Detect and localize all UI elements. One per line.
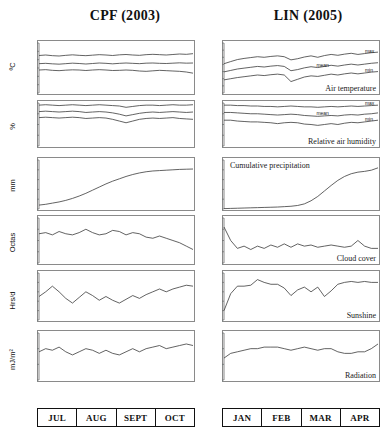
plot-area: 10152025303540 (37, 40, 195, 95)
chart-panel-lin-radiation: 0102030Radiation (222, 330, 380, 382)
series-line-min (224, 72, 378, 82)
month-cell: MAR (302, 409, 341, 426)
y-unit-precipitation: mm (8, 166, 17, 206)
chart-panel-cpf-radiation: 0102030 (37, 330, 195, 382)
figure-root: CPF (2003) LIN (2005) ºC % mm Octas Hrs/… (0, 0, 383, 441)
series-line-max (224, 105, 378, 107)
plot-area: 0102030 (37, 330, 195, 382)
series-label-mean: mean (316, 62, 329, 68)
panel-title-lin-cloud-cover: Cloud cover (337, 254, 376, 263)
month-cell: FEB (262, 409, 301, 426)
chart-panel-cpf-relative-humidity: 0255075100 (37, 100, 195, 148)
chart-panel-lin-cloud-cover: 02468Cloud cover (222, 215, 380, 265)
y-unit-temperature: ºC (8, 47, 17, 87)
chart-panel-lin-relative-humidity: 0255075100Relative air humiditymaxmeanmi… (222, 100, 380, 148)
plot-area: 02468 (37, 215, 195, 265)
plot-area: 0246810 (37, 270, 195, 322)
panel-title-lin-cumulative-precipitation: Cumulative precipitation (230, 161, 310, 170)
plot-area: 050100150200250 (37, 157, 195, 211)
chart-panel-cpf-sunshine: 0246810 (37, 270, 195, 322)
y-unit-sunshine: Hrs/d (8, 281, 17, 321)
series-label-max: max (365, 100, 374, 106)
chart-panel-cpf-cumulative-precipitation: 050100150200250 (37, 157, 195, 211)
series-label-max: max (365, 48, 374, 54)
series-line-radiation (224, 344, 378, 358)
series-line-mean (39, 63, 193, 64)
panel-title-lin-relative-humidity: Relative air humidity (308, 137, 376, 146)
chart-panel-lin-air-temperature: 510152025303540Air temperaturemaxmeanmin (222, 40, 380, 95)
month-cell: APR (341, 409, 379, 426)
month-cell: OCT (156, 409, 194, 426)
month-cell: SEPT (117, 409, 156, 426)
series-line-max (224, 52, 378, 64)
month-axis-cpf: JULAUGSEPTOCT (37, 408, 195, 427)
series-line-sunshine (224, 280, 378, 311)
chart-panel-lin-cumulative-precipitation: 050100150200250Cumulative precipitation (222, 157, 380, 211)
month-axis-lin: JANFEBMARAPR (222, 408, 380, 427)
series-line-cumulative (224, 168, 378, 209)
series-line-mean (224, 63, 378, 72)
series-line-max (39, 105, 193, 108)
chart-panel-cpf-air-temperature: 10152025303540 (37, 40, 195, 95)
series-line-cloud (39, 229, 193, 249)
plot-area: 0255075100 (37, 100, 195, 148)
panel-title-lin-radiation: Radiation (345, 371, 376, 380)
series-line-min (224, 120, 378, 125)
y-unit-humidity: % (8, 107, 17, 147)
series-label-mean: mean (316, 110, 329, 116)
month-cell: JAN (223, 409, 262, 426)
series-line-sunshine (39, 285, 193, 303)
panel-title-lin-sunshine: Sunshine (347, 311, 376, 320)
chart-panel-cpf-cloud-cover: 02468 (37, 215, 195, 265)
month-cell: JUL (38, 409, 77, 426)
column-title-cpf: CPF (2003) (55, 8, 195, 24)
series-line-cumulative (39, 169, 193, 205)
series-line-mean (224, 112, 378, 116)
series-line-min (39, 117, 193, 123)
series-line-radiation (39, 344, 193, 355)
series-label-min: min (365, 116, 373, 122)
series-line-cloud (224, 227, 378, 250)
month-cell: AUG (77, 409, 116, 426)
y-unit-cloud: Octas (8, 223, 17, 263)
chart-panel-lin-sunshine: 0246810Sunshine (222, 270, 380, 322)
column-title-lin: LIN (2005) (238, 8, 378, 24)
series-line-min (39, 70, 193, 74)
series-line-max (39, 54, 193, 56)
series-label-min: min (365, 67, 373, 73)
series-line-mean (39, 111, 193, 116)
panel-title-lin-air-temperature: Air temperature (325, 84, 376, 93)
y-unit-radiation: mJ/m² (8, 340, 17, 380)
